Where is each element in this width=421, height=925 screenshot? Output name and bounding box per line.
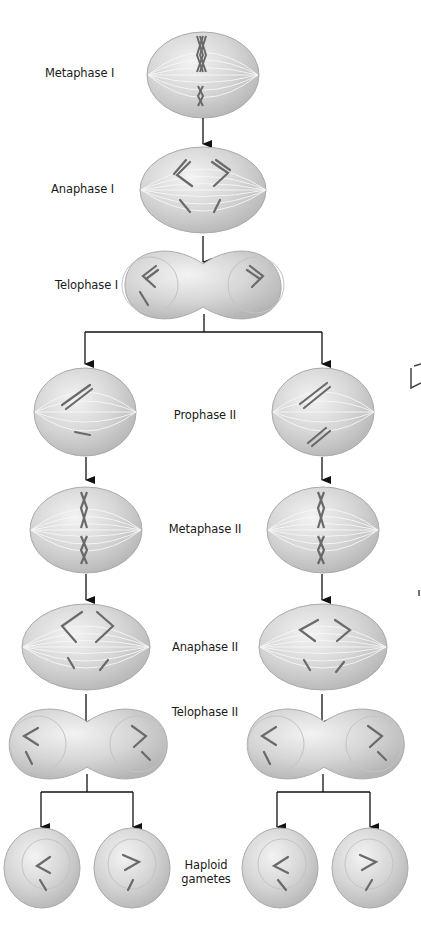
label-anaphase-2: Anaphase II [172,640,238,654]
cell-prophase-2-left [34,368,136,456]
gamete-4 [332,828,408,908]
gamete-1 [4,828,80,908]
cell-metaphase-2-right [267,487,379,573]
label-metaphase-1: Metaphase I [45,66,114,80]
label-telophase-1: Telophase I [55,278,118,292]
gamete-3 [242,828,318,908]
cell-telophase-2-right [247,709,404,779]
label-anaphase-1: Anaphase I [51,182,114,196]
cell-anaphase-2-right [259,604,387,690]
label-haploid-gametes: Haploid gametes [181,858,231,886]
label-haploid-line1: Haploid [181,858,231,872]
cell-metaphase-1 [147,32,259,118]
cell-anaphase-2-left [22,604,150,690]
meiosis-diagram [0,0,421,925]
cell-metaphase-2-left [30,487,142,573]
cell-anaphase-1 [140,147,266,233]
label-haploid-line2: gametes [181,872,231,886]
label-prophase-2: Prophase II [174,408,236,422]
label-telophase-2: Telophase II [172,705,238,719]
gamete-2 [94,828,170,908]
cell-prophase-2-right [272,368,374,456]
cell-telophase-2-left [9,709,167,779]
label-metaphase-2: Metaphase II [169,522,242,536]
edge-fragment-icon [411,364,421,596]
